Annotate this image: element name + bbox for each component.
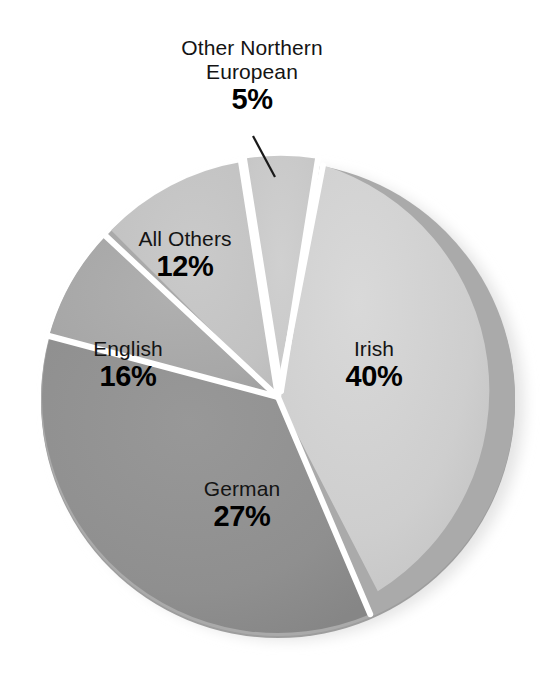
pie-label-irish: Irish 40% <box>314 338 434 391</box>
pie-label-german-name: German <box>172 478 312 500</box>
pie-label-other-northern-european-name: Other NorthernEuropean <box>152 36 352 83</box>
pie-chart: Other NorthernEuropean 5% All Others 12%… <box>0 0 549 674</box>
pie-label-german: German 27% <box>172 478 312 531</box>
pie-label-other-northern-european: Other NorthernEuropean 5% <box>152 36 352 114</box>
pie-label-all-others-name: All Others <box>110 228 260 250</box>
pie-label-english-name: English <box>62 338 194 360</box>
pie-label-german-value: 27% <box>172 501 312 531</box>
pie-label-all-others-value: 12% <box>110 251 260 281</box>
pie-label-english-value: 16% <box>62 361 194 391</box>
pie-label-irish-value: 40% <box>314 361 434 391</box>
pie-label-english: English 16% <box>62 338 194 391</box>
pie-label-irish-name: Irish <box>314 338 434 360</box>
pie-label-all-others: All Others 12% <box>110 228 260 281</box>
pie-label-other-northern-european-value: 5% <box>152 84 352 114</box>
